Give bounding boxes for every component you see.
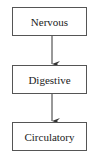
node-circulatory: Circulatory: [12, 122, 87, 151]
node-label: Circulatory: [24, 131, 74, 143]
node-label: Digestive: [28, 74, 70, 86]
node-digestive: Digestive: [12, 65, 87, 94]
